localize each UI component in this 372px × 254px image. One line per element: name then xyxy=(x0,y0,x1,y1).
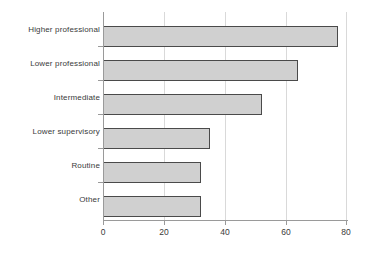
plot-area xyxy=(103,12,347,220)
y-axis-tick xyxy=(98,80,103,81)
x-axis-tick xyxy=(225,221,226,225)
bar-routine xyxy=(103,162,201,183)
y-axis-category-label: Routine xyxy=(71,161,100,171)
x-axis-tick-label: 40 xyxy=(213,227,237,238)
x-axis-tick xyxy=(164,221,165,225)
x-axis-tick-label: 20 xyxy=(152,227,176,238)
y-axis-category-label: Higher professional xyxy=(28,25,100,35)
bar-lower-professional xyxy=(103,60,298,81)
x-axis-tick-label: 60 xyxy=(274,227,298,238)
y-axis-category-label: Lower professional xyxy=(30,59,100,69)
x-axis-tick xyxy=(286,221,287,225)
bar-chart: Higher professional Lower professional I… xyxy=(0,0,372,254)
bar-other xyxy=(103,196,201,217)
y-axis-tick xyxy=(98,148,103,149)
x-axis-tick-label: 0 xyxy=(91,227,115,238)
x-axis-tick xyxy=(103,221,104,225)
y-axis-tick xyxy=(98,114,103,115)
x-axis-tick xyxy=(346,221,347,225)
bar-lower-supervisory xyxy=(103,128,210,149)
x-axis-tick-label: 80 xyxy=(334,227,358,238)
y-axis-category-label: Lower supervisory xyxy=(33,127,100,137)
y-axis-category-label: Other xyxy=(79,195,100,205)
y-axis-tick xyxy=(98,182,103,183)
bar-higher-professional xyxy=(103,26,338,47)
y-axis-category-label: Intermediate xyxy=(54,93,100,103)
gridline-80 xyxy=(346,12,347,220)
bar-intermediate xyxy=(103,94,262,115)
y-axis-tick xyxy=(98,46,103,47)
y-axis-line xyxy=(103,12,104,221)
